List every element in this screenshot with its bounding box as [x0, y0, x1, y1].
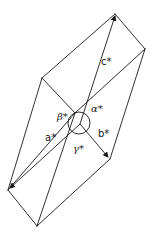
cell-inner-edges	[8, 49, 145, 226]
label-c-star: c*	[101, 56, 112, 67]
reciprocal-cell-diagram: c* α* β* b* a* γ*	[0, 0, 154, 237]
cell-outline	[8, 14, 145, 226]
axis-vectors	[10, 16, 115, 188]
label-b-star: b*	[98, 128, 109, 139]
label-gamma-star: γ*	[73, 143, 84, 154]
label-alpha-star: α*	[91, 103, 103, 114]
label-beta-star: β*	[56, 111, 68, 122]
label-a-star: a*	[45, 132, 56, 143]
